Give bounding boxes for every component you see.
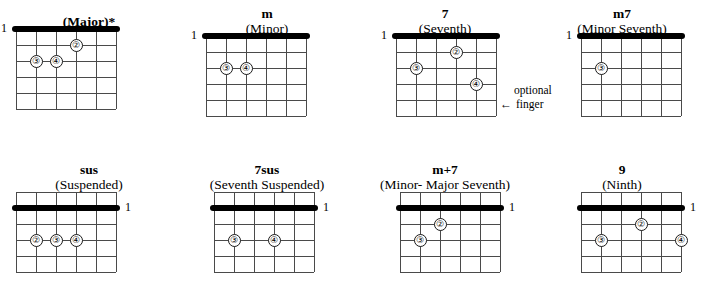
- fretboard-grid: 1②③④: [581, 192, 681, 272]
- chord-diagram-major: (Major)*1②③④: [0, 14, 178, 115]
- finger-marker: ②: [30, 234, 43, 247]
- chord-diagram-minor: m(Minor)1③④: [178, 6, 356, 122]
- fretboard-area: 1②③④: [0, 192, 178, 278]
- fret-line: [206, 84, 306, 85]
- fret-position-label: 1: [566, 29, 572, 41]
- string-line: [601, 36, 602, 116]
- fret-line: [214, 192, 314, 193]
- fretboard-area: 1③: [533, 36, 711, 122]
- fret-line: [206, 52, 306, 53]
- nut-bar: [577, 33, 685, 39]
- nut-bar: [577, 205, 685, 211]
- finger-marker: ④: [470, 78, 483, 91]
- string-line: [621, 36, 622, 116]
- string-line: [96, 192, 97, 272]
- fretboard-grid: 1③: [581, 36, 681, 116]
- fret-line: [16, 256, 116, 257]
- fret-line: [16, 77, 116, 78]
- optional-finger-note-line2: ←finger: [500, 97, 552, 111]
- finger-marker: ②: [434, 218, 447, 231]
- string-line: [206, 36, 207, 116]
- finger-marker: ③: [414, 234, 427, 247]
- fret-line: [16, 224, 116, 225]
- nut-bar: [12, 26, 120, 32]
- fretboard-area: 1②③: [356, 192, 534, 278]
- chord-title: m+7: [356, 162, 534, 177]
- string-line: [581, 36, 582, 116]
- string-line: [420, 192, 421, 272]
- fret-line: [16, 109, 116, 110]
- fretboard-grid: 1②③④: [396, 36, 496, 116]
- fret-line: [206, 116, 306, 117]
- chord-title: 9: [533, 162, 711, 177]
- finger-marker: ③: [30, 55, 43, 68]
- string-line: [460, 192, 461, 272]
- finger-marker: ④: [70, 234, 83, 247]
- fret-line: [16, 272, 116, 273]
- fret-line: [16, 45, 116, 46]
- string-line: [254, 192, 255, 272]
- finger-marker: ③: [595, 62, 608, 75]
- string-line: [16, 192, 17, 272]
- string-line: [396, 36, 397, 116]
- finger-marker: ④: [675, 234, 688, 247]
- nut-bar: [392, 33, 500, 39]
- string-line: [621, 192, 622, 272]
- chord-diagram-seventh-suspended: 7sus(Seventh Suspended)1③④: [178, 162, 356, 278]
- fretboard-area: 1②③④: [0, 29, 178, 115]
- string-line: [436, 36, 437, 116]
- chord-diagram-sus: sus(Suspended)1②③④: [0, 162, 178, 278]
- string-line: [56, 192, 57, 272]
- finger-marker: ③: [220, 62, 233, 75]
- string-line: [476, 36, 477, 116]
- fret-line: [206, 100, 306, 101]
- fret-position-label: 1: [125, 201, 131, 213]
- fretboard-grid: 1②③④: [16, 192, 116, 272]
- fret-line: [581, 52, 681, 53]
- finger-marker: ②: [70, 39, 83, 52]
- optional-finger-note-text: finger: [516, 98, 543, 110]
- string-line: [116, 29, 117, 109]
- fretboard-grid: 1②③④: [16, 29, 116, 109]
- fret-line: [214, 256, 314, 257]
- fret-position-label: 1: [381, 29, 387, 41]
- optional-finger-note-line1: optional: [500, 83, 552, 97]
- fret-line: [400, 272, 500, 273]
- string-line: [286, 36, 287, 116]
- string-line: [661, 192, 662, 272]
- chord-subtitle: (Minor- Major Seventh): [356, 177, 534, 192]
- nut-bar: [210, 205, 318, 211]
- finger-marker: ②: [635, 218, 648, 231]
- string-line: [581, 192, 582, 272]
- string-line: [16, 29, 17, 109]
- finger-marker: ④: [240, 62, 253, 75]
- string-line: [480, 192, 481, 272]
- fret-position-label: 1: [1, 22, 7, 34]
- chord-title: 7: [356, 6, 534, 21]
- nut-bar: [202, 33, 310, 39]
- string-line: [36, 29, 37, 109]
- chord-diagram-minor-seventh: m7(Minor Seventh)1③: [533, 6, 711, 122]
- fretboard-grid: 1③④: [206, 36, 306, 116]
- finger-marker: ③: [410, 62, 423, 75]
- string-line: [641, 36, 642, 116]
- fret-position-label: 1: [509, 201, 515, 213]
- fretboard-grid: 1②③: [400, 192, 500, 272]
- string-line: [416, 36, 417, 116]
- finger-marker: ④: [268, 234, 281, 247]
- fret-line: [400, 192, 500, 193]
- string-line: [496, 36, 497, 116]
- finger-marker: ③: [50, 234, 63, 247]
- string-line: [661, 36, 662, 116]
- chord-subtitle: (Ninth): [533, 177, 711, 192]
- string-line: [641, 192, 642, 272]
- fret-line: [581, 256, 681, 257]
- string-line: [294, 192, 295, 272]
- chord-title: m7: [533, 6, 711, 21]
- left-arrow-icon: ←: [500, 97, 512, 111]
- fret-line: [396, 100, 496, 101]
- fret-position-label: 1: [323, 201, 329, 213]
- chord-subtitle: (Suspended): [0, 177, 178, 192]
- fret-position-label: 1: [191, 29, 197, 41]
- string-line: [116, 192, 117, 272]
